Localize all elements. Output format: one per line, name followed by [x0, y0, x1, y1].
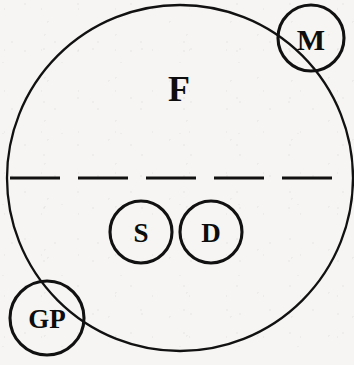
outer-set-label-F: F — [168, 69, 190, 109]
node-label-D: D — [201, 218, 221, 248]
node-label-M: M — [297, 23, 325, 56]
node-label-GP: GP — [28, 304, 66, 334]
node-label-S: S — [133, 218, 148, 248]
venn-diagram-svg: F M GP S D — [0, 0, 354, 365]
venn-diagram-canvas: F M GP S D — [0, 0, 354, 365]
